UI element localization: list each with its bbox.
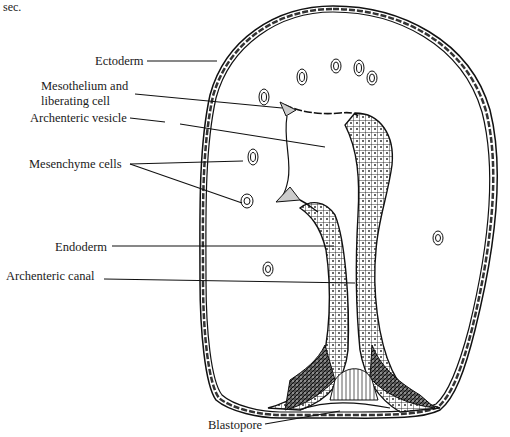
label-mesenchyme-cells: Mesenchyme cells bbox=[29, 157, 122, 171]
label-archenteric-vesicle: Archenteric vesicle bbox=[30, 111, 127, 125]
label-blastopore: Blastopore bbox=[208, 418, 262, 432]
label-endoderm: Endoderm bbox=[55, 240, 107, 254]
archenteron bbox=[268, 113, 440, 412]
label-mesothelium: Mesothelium and bbox=[41, 79, 128, 93]
label-archenteric-canal: Archenteric canal bbox=[6, 269, 94, 283]
label-ectoderm: Ectoderm bbox=[95, 54, 144, 68]
embryo-diagram bbox=[0, 0, 510, 437]
mesothelium bbox=[276, 102, 358, 212]
ectoderm-layer bbox=[200, 6, 497, 418]
label-liberating-cell: liberating cell bbox=[41, 94, 110, 108]
